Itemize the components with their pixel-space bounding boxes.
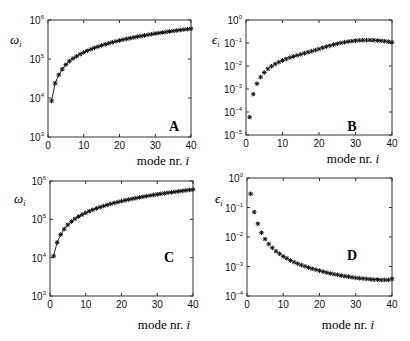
data-point-marker (116, 200, 121, 205)
y-tick-label: 100 (228, 14, 243, 26)
data-point-marker (151, 193, 156, 198)
data-point-marker (191, 187, 196, 192)
data-point-marker (339, 41, 344, 46)
data-point-marker (58, 232, 63, 237)
data-point-marker (335, 273, 340, 278)
data-point-marker (332, 272, 337, 277)
x-tick-label: 10 (277, 138, 289, 149)
panel-label-c: C (164, 250, 174, 265)
y-tick-label: 10−2 (224, 60, 243, 72)
y-tick-label: 10−3 (224, 83, 243, 95)
x-tick-label: 0 (244, 299, 250, 310)
plot-area-c: 010203040103104105106 (32, 175, 199, 310)
data-point-marker (112, 201, 117, 206)
panel-d: 01020304010−410−310−210−1100 ϵi D mode n… (215, 172, 398, 332)
y-tick-label: 10−5 (224, 129, 243, 141)
y-axis-label-b: ϵi (212, 32, 219, 49)
axes-box (50, 181, 193, 296)
data-point-marker (114, 39, 119, 44)
data-point-marker (252, 210, 257, 215)
x-tick-label: 10 (278, 299, 290, 310)
data-point-marker (53, 81, 58, 86)
data-point-marker (263, 237, 268, 242)
data-point-marker (66, 223, 71, 228)
data-point-marker (342, 40, 347, 45)
data-point-marker (324, 44, 329, 49)
data-point-marker (105, 203, 110, 208)
panel-b: 01020304010−510−410−310−210−1100 ϵi B mo… (212, 14, 398, 166)
x-tick-label: 40 (386, 299, 398, 310)
data-point-marker (259, 230, 264, 235)
data-point-marker (317, 268, 322, 273)
data-point-marker (321, 269, 326, 274)
x-tick-label: 30 (152, 299, 164, 310)
y-tick-label: 106 (30, 14, 45, 26)
data-point-marker (103, 42, 108, 47)
y-tick-label: 10−3 (225, 261, 244, 273)
y-tick-label: 103 (30, 131, 45, 143)
data-point-marker (159, 192, 164, 197)
data-point-marker (335, 41, 340, 46)
y-tick-label: 103 (32, 290, 47, 302)
x-tick-label: 0 (47, 299, 53, 310)
data-point-marker (350, 275, 355, 280)
data-point-marker (55, 240, 60, 245)
x-tick-label: 30 (350, 138, 362, 149)
x-axis-label-b: mode nr. i (327, 151, 380, 166)
data-point-marker (302, 51, 307, 56)
data-point-marker (189, 26, 194, 31)
data-point-marker (49, 99, 54, 104)
x-axis-label-c: mode nr. i (138, 317, 191, 332)
data-point-marker (155, 192, 160, 197)
x-tick-label: 20 (114, 140, 126, 151)
data-point-marker (101, 204, 106, 209)
panel-a: 010203040103104105106 ωi A mode nr. i (10, 14, 197, 168)
data-point-marker (291, 54, 296, 59)
y-tick-label: 106 (32, 175, 47, 187)
data-point-marker (73, 217, 78, 222)
data-point-marker (67, 59, 72, 64)
data-point-marker (153, 31, 158, 36)
data-point-marker (310, 266, 315, 271)
data-point-marker (51, 254, 56, 259)
data-point-marker (274, 249, 279, 254)
panel-c: 010203040103104105106 ωi C mode nr. i (14, 175, 199, 332)
data-point-marker (124, 37, 129, 42)
data-point-marker (142, 33, 147, 38)
data-point-marker (324, 270, 329, 275)
data-point-marker (164, 30, 169, 35)
data-point-marker (270, 246, 275, 251)
data-point-marker (162, 191, 167, 196)
data-point-marker (123, 198, 128, 203)
panel-label-d: D (347, 248, 357, 263)
data-point-marker (258, 75, 263, 80)
data-point-marker (314, 267, 319, 272)
data-point-marker (128, 36, 133, 41)
data-point-marker (309, 49, 314, 54)
x-tick-label: 40 (185, 140, 197, 151)
data-point-marker (99, 43, 104, 48)
data-point-marker (386, 278, 391, 283)
data-point-marker (390, 40, 395, 45)
data-point-marker (277, 251, 282, 256)
data-point-marker (119, 199, 124, 204)
data-point-marker (132, 35, 137, 40)
data-point-marker (134, 196, 139, 201)
data-point-marker (346, 274, 351, 279)
data-point-marker (331, 42, 336, 47)
data-point-marker (141, 194, 146, 199)
data-point-marker (295, 53, 300, 58)
data-point-marker (146, 32, 151, 37)
x-axis-label-d: mode nr. i (322, 317, 375, 332)
data-point-marker (269, 64, 274, 69)
data-point-marker (148, 193, 153, 198)
data-point-marker (135, 34, 140, 39)
data-point-marker (255, 81, 260, 86)
panel-label-b: B (347, 119, 356, 134)
data-point-marker (247, 115, 252, 120)
panel-label-a: A (169, 119, 180, 134)
data-point-marker (69, 219, 74, 224)
data-point-marker (126, 197, 131, 202)
data-point-marker (390, 277, 395, 282)
x-tick-label: 40 (386, 138, 398, 149)
